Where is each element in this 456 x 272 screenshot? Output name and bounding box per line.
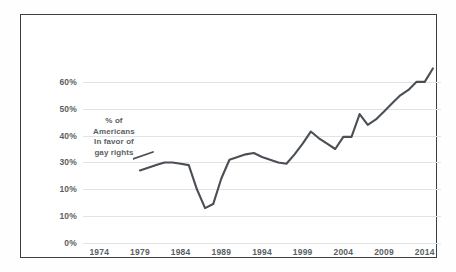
chart-frame: 0%10%10%30%40%50%60% 1974197919841989199… <box>20 14 437 258</box>
chart-container: 0%10%10%30%40%50%60% 1974197919841989199… <box>0 0 456 272</box>
x-axis-tick-label: 2009 <box>374 247 394 257</box>
y-axis-tick-label: 10% <box>59 184 77 194</box>
annotation-line-3: In favor of <box>79 137 149 148</box>
series-line-gay-rights <box>140 68 433 208</box>
x-axis-tick-label: 1979 <box>130 247 150 257</box>
x-axis-tick-label: 2014 <box>415 247 435 257</box>
y-axis-tick-label: 0% <box>64 238 77 248</box>
annotation-leader-line <box>133 148 155 162</box>
gridline <box>83 243 441 244</box>
x-axis-tick-label: 1984 <box>171 247 191 257</box>
annotation-line-2: Americans <box>79 127 149 138</box>
y-axis-tick-label: 60% <box>59 77 77 87</box>
y-axis-tick-label: 40% <box>59 131 77 141</box>
x-axis-tick-label: 1974 <box>89 247 109 257</box>
y-axis-tick-label: 10% <box>59 211 77 221</box>
y-axis-tick-label: 50% <box>59 104 77 114</box>
x-axis-tick-label: 1994 <box>252 247 272 257</box>
annotation-line-1: % of <box>79 116 149 127</box>
x-axis-tick-label: 2004 <box>334 247 354 257</box>
x-axis-tick-label: 1989 <box>211 247 231 257</box>
x-axis-tick-labels: 197419791984198919941999200420092014 <box>83 247 441 263</box>
y-axis-tick-label: 30% <box>59 157 77 167</box>
x-axis-tick-label: 1999 <box>293 247 313 257</box>
y-axis-tick-labels: 0%10%10%30%40%50%60% <box>43 55 77 243</box>
